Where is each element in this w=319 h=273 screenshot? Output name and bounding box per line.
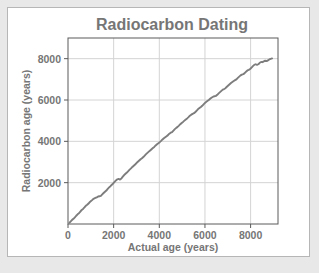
calibration-curve-line [69, 58, 272, 222]
y-tick-label: 4000 [38, 135, 62, 147]
x-tick-label: 6000 [193, 229, 217, 241]
x-tick-label: 4000 [148, 229, 172, 241]
x-axis-tick-labels: 02000400060008000 [65, 229, 262, 241]
figure-panel: Radiocarbon Dating 02000400060008000 200… [7, 7, 310, 257]
y-axis-tick-labels: 2000400060008000 [38, 53, 62, 189]
y-tick-label: 6000 [38, 94, 62, 106]
radiocarbon-dating-chart: Radiocarbon Dating 02000400060008000 200… [8, 8, 311, 258]
y-tick-label: 2000 [38, 177, 62, 189]
chart-title: Radiocarbon Dating [96, 16, 248, 33]
x-tick-label: 8000 [239, 229, 263, 241]
x-tick-label: 2000 [102, 229, 126, 241]
x-tick-label: 0 [65, 229, 71, 241]
y-axis-title: Radiocarbon age (years) [20, 70, 32, 193]
x-axis-title: Actual age (years) [128, 241, 218, 253]
y-tick-label: 8000 [38, 53, 62, 65]
